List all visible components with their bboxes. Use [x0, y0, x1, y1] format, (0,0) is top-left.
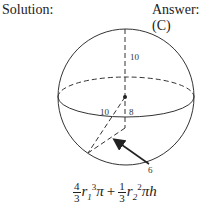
label-height: 8	[129, 107, 134, 117]
equator-back	[58, 77, 194, 97]
base-radius	[88, 128, 125, 153]
label-base-radius: 6	[148, 165, 153, 175]
pointer-arrow	[115, 140, 149, 164]
volume-formula: 43r13π+13r22πh	[73, 181, 157, 204]
label-slant-radius: 10	[100, 107, 110, 117]
fraction-4-3: 43	[73, 181, 81, 204]
slant-radius	[88, 97, 125, 153]
label-top-radius: 10	[130, 52, 140, 62]
center-point	[123, 95, 127, 99]
equator-front	[58, 97, 194, 117]
sphere-diagram: 10 10 8 6	[0, 0, 221, 210]
fraction-1-3: 13	[118, 181, 126, 204]
